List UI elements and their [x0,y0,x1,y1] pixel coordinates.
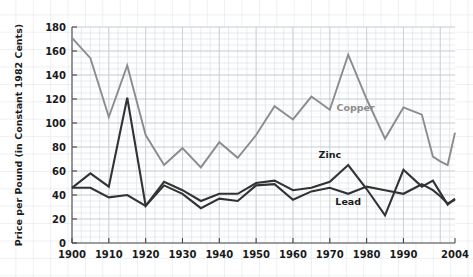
y-axis-tick-label: 180 [45,22,66,33]
y-axis-tick-label: 100 [45,118,66,129]
y-axis-tick-label: 40 [52,190,66,201]
x-axis-tick-label: 1980 [353,249,381,260]
y-axis-tick-label: 160 [45,46,66,57]
y-axis-tick-labels: 020406080100120140160180 [45,22,66,249]
x-axis-tick-label: 1950 [242,249,270,260]
series-label-lead: Lead [335,196,361,207]
y-axis-tick-label: 0 [59,238,66,249]
y-axis-tick-label: 60 [52,166,66,177]
x-axis-tick-label: 1930 [169,249,197,260]
x-axis-tick-labels: 1900191019201930194019501960197019801990… [58,249,469,260]
y-axis-tick-label: 120 [45,94,66,105]
x-axis-tick-label: 1900 [58,249,86,260]
series-label-zinc: Zinc [319,149,342,160]
series-label-copper: Copper [336,102,375,113]
x-axis-tick-label: 1960 [279,249,307,260]
y-axis-title: Price per Pound (in Constant 1982 Cents) [13,24,24,246]
x-axis-tick-label: 2004 [441,249,469,260]
chart-figure: 020406080100120140160180 190019101920193… [0,0,473,277]
x-axis-tick-label: 1940 [205,249,233,260]
commodity-price-line-chart: 020406080100120140160180 190019101920193… [0,0,473,277]
x-axis-tick-label: 1910 [95,249,123,260]
y-axis-tick-label: 20 [52,214,66,225]
y-axis-tick-label: 140 [45,70,66,81]
plot-area [72,27,455,243]
x-axis-tick-label: 1990 [390,249,418,260]
x-axis-tick-label: 1920 [132,249,160,260]
x-axis-tick-label: 1970 [316,249,344,260]
y-axis-tick-label: 80 [52,142,66,153]
